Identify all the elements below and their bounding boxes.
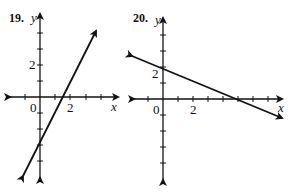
graph-20-x-label: x <box>278 101 284 114</box>
graph-20-y-label: y <box>155 13 161 26</box>
graph-20-x-tick-label: 2 <box>190 103 197 116</box>
graph-20-plot <box>0 0 290 193</box>
graph-20-number: 20. <box>133 12 148 24</box>
graph-20-y-tick-label: 2 <box>152 67 159 80</box>
graph-20-origin-label: 0 <box>153 103 160 116</box>
